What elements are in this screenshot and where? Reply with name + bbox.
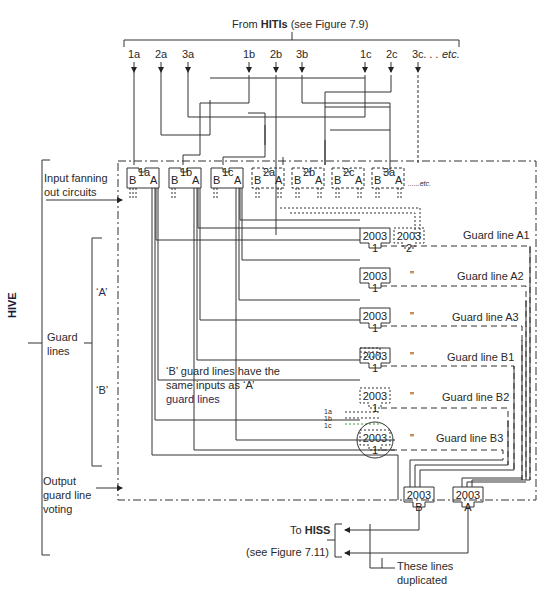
input-label: 1c xyxy=(360,48,372,61)
fanout-id: 2a xyxy=(263,166,275,178)
guard-line-a3: Guard line A3 xyxy=(452,311,519,324)
fanout-id: 1a xyxy=(138,166,150,178)
fanout-a: A xyxy=(275,174,282,186)
guard-lines-label: Guard lines xyxy=(47,330,78,358)
fanout-circuit-2a: B xyxy=(254,174,261,186)
fanout-circuit-1a: B xyxy=(129,174,136,186)
fanout-circuit-1c: B xyxy=(213,174,220,186)
hive-label: HIVE xyxy=(6,292,18,318)
output-gate-a: 2003A xyxy=(451,489,485,513)
output-voting-label: Output guard line voting xyxy=(43,474,91,516)
voting-gate-a3: 20031 xyxy=(358,310,392,334)
fanout-circuit-2c: B xyxy=(334,174,341,186)
ditto-mark: " xyxy=(410,390,414,403)
duplicated-note: These lines duplicated xyxy=(397,559,453,587)
input-label: 1b xyxy=(243,48,255,61)
fanout-a: A xyxy=(355,174,362,186)
voting-gate-b2: 20031 xyxy=(358,390,392,414)
fanout-a: A xyxy=(192,174,199,186)
b-guard-note: ‘B’ guard lines have the same inputs as … xyxy=(166,364,280,406)
voting-gate-a1-2: 20032 xyxy=(392,230,426,254)
voting-gate-b3: 20031 xyxy=(358,432,392,456)
fanout-id: 2c xyxy=(343,166,355,178)
to-hiss-label: To HISS xyxy=(290,524,330,537)
ditto-mark: " xyxy=(410,350,414,363)
input-label: 3b xyxy=(296,48,308,61)
voting-gate-b1: 20031 xyxy=(358,350,392,374)
guard-line-a2: Guard line A2 xyxy=(457,270,524,283)
header-title: From HITIs (see Figure 7.9) xyxy=(232,18,368,31)
input-label: 1a xyxy=(128,48,140,61)
input-label: 2a xyxy=(155,48,167,61)
b-input-1c: 1c xyxy=(324,422,331,430)
fanout-a: A xyxy=(395,174,402,186)
fanout-etc: ......etc. xyxy=(408,180,431,188)
fanout-id: 1c xyxy=(222,166,234,178)
fanout-a: A xyxy=(150,174,157,186)
fanout-circuit-1b: B xyxy=(171,174,178,186)
see-figure-label: (see Figure 7.11) xyxy=(246,546,329,559)
fanout-id: 3a xyxy=(383,166,395,178)
voting-gate-a2: 20031 xyxy=(358,270,392,294)
fanout-id: 2b xyxy=(303,166,315,178)
voting-gate-a1: 20031 xyxy=(358,230,392,254)
fanout-circuit-3a: B xyxy=(374,174,381,186)
fanout-id: 1b xyxy=(180,166,192,178)
ditto-mark: " xyxy=(410,432,414,445)
group-b-label: ‘B’ xyxy=(96,383,108,397)
guard-line-b2: Guard line B2 xyxy=(442,391,509,404)
fanout-a: A xyxy=(234,174,241,186)
ditto-mark: " xyxy=(410,269,414,282)
input-fanning-label: Input fanning out circuits xyxy=(44,171,108,199)
group-a-label: ‘A’ xyxy=(96,285,107,299)
fanout-a: A xyxy=(315,174,322,186)
input-label: 3a xyxy=(182,48,194,61)
input-label: 2b xyxy=(270,48,282,61)
output-gate-b: 2003B xyxy=(402,489,436,513)
guard-line-b3: Guard line B3 xyxy=(436,432,503,445)
guard-line-a1: Guard line A1 xyxy=(463,229,530,242)
guard-line-b1: Guard line B1 xyxy=(447,351,514,364)
input-label: 2c xyxy=(386,48,398,61)
fanout-circuit-2b: B xyxy=(294,174,301,186)
input-label: 3c. . . etc. xyxy=(412,48,460,61)
ditto-mark: " xyxy=(410,310,414,323)
